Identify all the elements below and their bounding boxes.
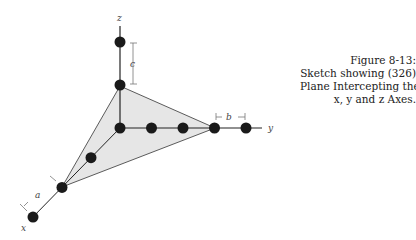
caption-line-title: Figure 8-13: [300,54,416,67]
a-label: a [35,190,40,200]
x-axis-point [28,212,39,223]
y-axis-point [209,123,220,134]
x-axis-point [86,152,97,163]
y-axis-point [146,123,157,134]
z-axis-point [115,80,126,91]
origin-point [115,123,126,134]
caption-line: Sketch showing (326) [300,67,416,80]
y-axis-point [178,123,189,134]
y-axis-point [241,123,252,134]
z-axis-label: z [116,13,122,23]
b-label: b [226,112,232,122]
x-axis [30,128,120,220]
z-axis-point [115,37,126,48]
crystal-plane-diagram: z y x c b a [0,0,416,240]
y-axis-label: y [267,123,274,133]
figure-caption: Figure 8-13: Sketch showing (326) Plane … [300,54,416,106]
c-label: c [130,59,135,69]
x-axis-point [57,182,68,193]
x-axis-label: x [21,223,26,233]
caption-line: Plane Intercepting the [300,80,416,93]
caption-line: x, y and z Axes. [300,93,416,106]
shaded-plane [62,86,215,187]
